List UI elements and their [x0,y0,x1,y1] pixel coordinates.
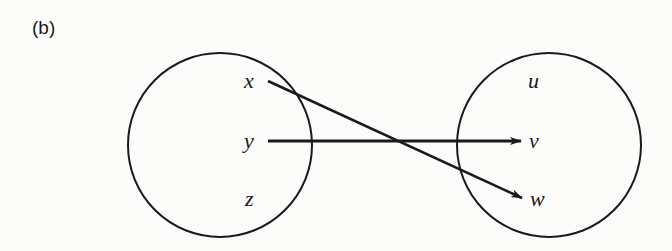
codomain-element-u: u [528,68,539,93]
domain-set-circle [128,53,312,237]
codomain-set-circle [457,53,641,237]
part-label: (b) [32,17,55,38]
codomain-element-v: v [529,128,539,153]
function-mapping-diagram: (b) x y z u v w [0,0,672,251]
domain-element-x: x [243,68,254,93]
codomain-element-w: w [530,186,545,211]
domain-element-y: y [242,128,254,153]
domain-element-z: z [244,186,254,211]
